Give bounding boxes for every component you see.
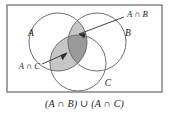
set-label-b: B <box>125 28 131 38</box>
figure-caption: (A ∩ B) ∪ (A ∩ C) <box>45 98 125 110</box>
set-label-a: A <box>27 28 34 38</box>
venn-diagram-figure: A B C A ∩ B A ∩ C (A ∩ B) ∪ (A ∩ C) <box>0 0 169 114</box>
callout-label-a-intersect-c: A ∩ C <box>18 61 41 71</box>
set-label-c: C <box>105 78 112 88</box>
venn-diagram-canvas: A B C A ∩ B A ∩ C (A ∩ B) ∪ (A ∩ C) <box>0 0 169 114</box>
callout-label-a-intersect-b: A ∩ B <box>126 9 149 19</box>
